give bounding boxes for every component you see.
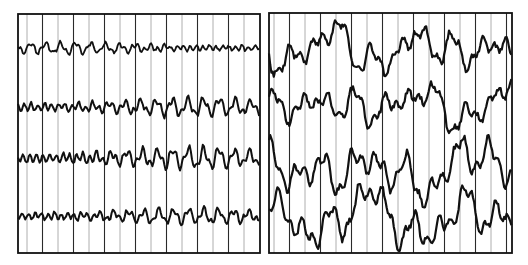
- eeg-trace-2: [18, 96, 259, 119]
- eeg-figure: [0, 0, 528, 265]
- left-eeg-panel: [18, 14, 260, 253]
- eeg-trace-3: [18, 145, 259, 171]
- eeg-trace-1: [18, 41, 259, 55]
- eeg-trace-4: [18, 206, 259, 225]
- eeg-figure-canvas: [0, 0, 528, 265]
- right-eeg-panel: [269, 13, 512, 253]
